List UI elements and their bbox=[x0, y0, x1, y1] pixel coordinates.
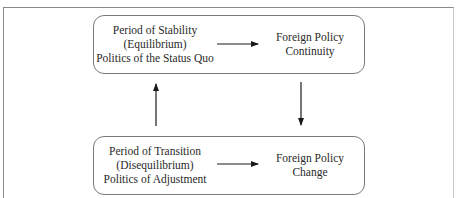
arrows-layer bbox=[0, 0, 456, 198]
